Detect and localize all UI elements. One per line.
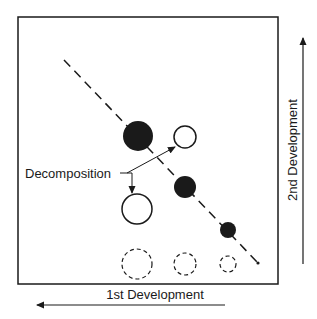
filled-spot [220, 222, 236, 238]
decomposition-label: Decomposition [25, 166, 111, 181]
second-development-label: 2nd Development [285, 99, 300, 201]
dashed-spot [220, 256, 236, 272]
dashed-spot [174, 253, 196, 275]
filled-spot [123, 121, 153, 151]
dashed-spot [122, 249, 152, 279]
dashed-spots [122, 249, 236, 279]
first-development-label: 1st Development [106, 287, 204, 302]
decomposition-arrow-down [127, 173, 132, 193]
hollow-spot [122, 194, 152, 224]
plate-frame [18, 17, 278, 284]
2d-chromatography-diagram: Decomposition 2nd Development 1st Develo… [0, 0, 317, 319]
diagonal-end-dot [256, 261, 259, 264]
hollow-spot [174, 126, 196, 148]
filled-spot [174, 176, 196, 198]
